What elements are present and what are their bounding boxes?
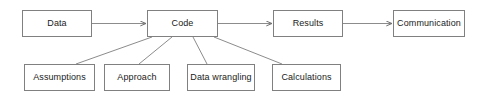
node-calculations-label: Calculations [281,72,331,83]
connector-code-to-assumptions [76,37,152,64]
node-data[interactable]: Data [22,10,92,37]
connector-code-to-data-wrangling [193,37,207,64]
node-assumptions-label: Assumptions [33,72,86,83]
node-calculations[interactable]: Calculations [272,64,341,91]
node-communication-label: Communication [397,18,461,29]
node-assumptions[interactable]: Assumptions [24,64,95,91]
connector-code-to-approach [139,37,172,64]
node-approach[interactable]: Approach [104,64,170,91]
node-data-wrangling-label: Data wrangling [190,72,251,83]
node-code-label: Code [172,18,194,29]
flowchart-diagram: Data Code Results Communication Assumpti… [0,0,482,101]
node-data-label: Data [47,18,66,29]
node-approach-label: Approach [117,72,156,83]
connector-code-to-calculations [214,37,282,64]
node-results-label: Results [293,18,324,29]
node-data-wrangling[interactable]: Data wrangling [187,64,255,91]
node-results[interactable]: Results [273,10,343,37]
node-communication[interactable]: Communication [393,10,465,37]
node-code[interactable]: Code [147,10,218,37]
